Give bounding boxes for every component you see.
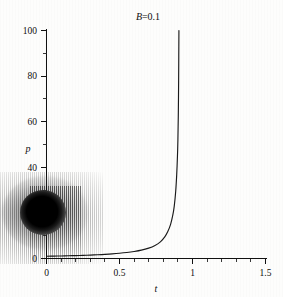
chart-figure: 0 0.5 1 1.5 t 0 20 40 (0, 0, 283, 297)
paper-grain-texture (0, 0, 283, 297)
